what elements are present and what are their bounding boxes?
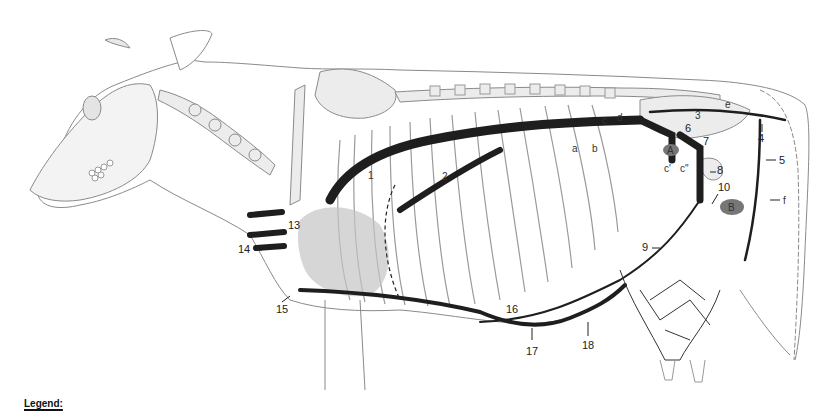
label-5: 5 bbox=[779, 154, 785, 166]
label-c: c bbox=[602, 115, 607, 126]
label-b: b bbox=[592, 143, 598, 154]
cervical-vertebrae bbox=[158, 90, 275, 175]
label-3: 3 bbox=[695, 110, 701, 121]
label-a: a bbox=[572, 143, 578, 154]
label-14: 14 bbox=[238, 243, 250, 255]
label-15: 15 bbox=[276, 303, 288, 315]
label-16: 16 bbox=[506, 303, 518, 315]
label-f: f bbox=[783, 195, 786, 206]
label-13: 13 bbox=[288, 219, 300, 231]
label-4: 4 bbox=[758, 132, 764, 144]
udder bbox=[620, 270, 720, 382]
label-1: 1 bbox=[368, 170, 374, 181]
region-label-A: A bbox=[667, 145, 674, 156]
label-10: 10 bbox=[718, 181, 730, 193]
pelvis bbox=[640, 96, 750, 180]
skull bbox=[30, 31, 212, 202]
region-label-B: B bbox=[728, 202, 735, 213]
label-2: 2 bbox=[442, 171, 448, 182]
label-18: 18 bbox=[582, 339, 594, 351]
label-d: d bbox=[617, 112, 623, 123]
label-9: 9 bbox=[642, 241, 648, 253]
label-c-double-prime: c" bbox=[680, 163, 689, 174]
anatomy-figure: A B 1 2 3 4 5 6 7 8 9 10 13 14 15 16 17 … bbox=[0, 0, 836, 420]
label-8: 8 bbox=[717, 164, 723, 176]
label-17: 17 bbox=[526, 345, 538, 357]
label-7: 7 bbox=[703, 135, 709, 147]
label-6: 6 bbox=[685, 122, 691, 134]
label-c-prime: c' bbox=[664, 163, 671, 174]
legend-heading: Legend: bbox=[24, 398, 63, 409]
label-e: e bbox=[725, 99, 731, 110]
heart bbox=[298, 185, 400, 300]
cow-circulatory-illustration: A B 1 2 3 4 5 6 7 8 9 10 13 14 15 16 17 … bbox=[0, 0, 836, 420]
